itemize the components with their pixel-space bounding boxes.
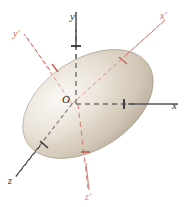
y-prime-axis-tick: [52, 64, 58, 72]
x-prime-axis-label: x': [160, 11, 167, 21]
z-axis-label: z: [8, 176, 12, 186]
diagram-svg: [0, 0, 185, 207]
x-axis-label: x: [172, 100, 177, 111]
z-prime-axis-label: z': [85, 192, 91, 202]
y-prime-axis-label: y': [13, 29, 20, 39]
origin-label: O: [62, 94, 70, 105]
y-prime-axis-outside: [24, 34, 50, 70]
y-axis-label: y: [70, 11, 75, 22]
figure-canvas: y x z x' y' z' O: [0, 0, 185, 207]
